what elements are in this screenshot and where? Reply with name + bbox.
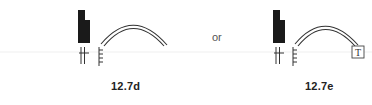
or-separator: or [212, 31, 222, 43]
double-bar-icon [274, 47, 284, 64]
notched-block-icon [273, 10, 285, 43]
figure-label-12-7e: 12.7e [305, 80, 334, 92]
boxed-letter-icon: T [352, 46, 364, 58]
boxed-letter: T [355, 47, 361, 58]
double-arc-icon [295, 26, 358, 46]
comb-icon [293, 47, 297, 66]
figure-label-12-7d: 12.7d [111, 80, 140, 92]
